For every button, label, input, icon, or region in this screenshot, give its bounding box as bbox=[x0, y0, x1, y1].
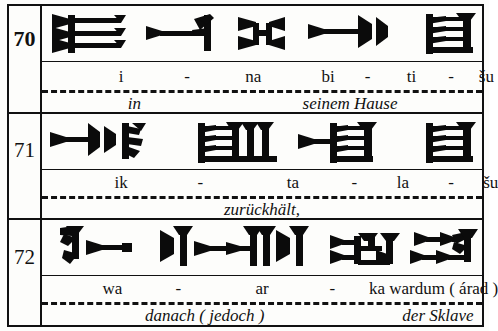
sign-ti-glyph bbox=[308, 15, 388, 48]
translation-segment: der Sklave bbox=[402, 307, 473, 324]
syllable-separator: - bbox=[352, 174, 358, 191]
cuneiform-band-71 bbox=[42, 116, 482, 170]
syllable: ar bbox=[255, 280, 268, 297]
cuneiform-signs-72 bbox=[42, 222, 482, 275]
syllable: šu bbox=[483, 174, 498, 191]
sign-ik-glyph bbox=[50, 123, 146, 159]
sign-wa-glyph bbox=[60, 226, 132, 264]
line-number-72: 72 bbox=[9, 247, 40, 268]
syllable-separator: - bbox=[330, 280, 336, 297]
sign-la-glyph bbox=[298, 122, 377, 163]
verse-separator-70-71 bbox=[9, 112, 482, 114]
transliteration-row-70: i - na bi - ti - šu bbox=[42, 64, 482, 92]
syllable: bi bbox=[321, 68, 334, 85]
translation-band-71: zurückhält, bbox=[42, 198, 482, 224]
syllable: ka wardum ( árad ) bbox=[369, 280, 498, 297]
syllable-separator: - bbox=[176, 280, 182, 297]
syllable: i bbox=[119, 68, 124, 85]
syllable: la bbox=[397, 174, 409, 191]
translation-band-72: danach ( jedoch ) der Sklave bbox=[42, 304, 482, 330]
syllable-separator: - bbox=[448, 68, 454, 85]
syllable-separator: - bbox=[365, 68, 371, 85]
sign-shu-glyph bbox=[426, 13, 476, 54]
sign-na-glyph bbox=[146, 14, 214, 51]
translation-segment: zurückhält, bbox=[224, 201, 300, 218]
transliteration-band-70: i - na bi - ti - šu bbox=[42, 64, 482, 92]
translation-segment: in bbox=[128, 95, 141, 112]
line-number-70: 70 bbox=[9, 28, 40, 50]
sign-ka-glyph bbox=[330, 233, 400, 265]
cuneiform-band-72 bbox=[42, 222, 482, 276]
transliteration-row-71: ik - ta - la - šu bbox=[42, 170, 482, 198]
sign-shu-glyph bbox=[426, 122, 476, 163]
syllable: ik bbox=[115, 174, 128, 191]
translation-segment: seinem Hause bbox=[303, 95, 398, 112]
cuneiform-band-70 bbox=[42, 6, 482, 62]
transliteration-band-71: ik - ta - la - šu bbox=[42, 170, 482, 198]
verse-separator-71-72 bbox=[9, 218, 482, 220]
syllable: šu bbox=[479, 68, 494, 85]
translation-band-70: in seinem Hause bbox=[42, 92, 482, 118]
translation-segment: danach ( jedoch ) bbox=[145, 307, 264, 324]
transliteration-band-72: wa - ar - ka wardum ( árad ) bbox=[42, 276, 482, 304]
sign-bi-glyph bbox=[238, 17, 285, 50]
syllable: ta bbox=[287, 174, 299, 191]
syllable: ti bbox=[407, 68, 416, 85]
syllable-separator: - bbox=[448, 174, 454, 191]
sign-ar-glyph bbox=[160, 226, 309, 266]
syllable: wa bbox=[102, 280, 122, 297]
transliteration-row-72: wa - ar - ka wardum ( árad ) bbox=[42, 276, 482, 304]
cuneiform-signs-71 bbox=[42, 116, 482, 169]
cuneiform-signs-70 bbox=[42, 6, 482, 61]
sign-i-glyph bbox=[52, 14, 126, 53]
sign-wardum-arad-glyph bbox=[410, 229, 478, 264]
syllable-separator: - bbox=[184, 68, 190, 85]
syllable-separator: - bbox=[198, 174, 204, 191]
sign-ta-glyph bbox=[198, 122, 277, 163]
syllable: na bbox=[245, 68, 261, 85]
line-number-71: 71 bbox=[9, 140, 40, 161]
